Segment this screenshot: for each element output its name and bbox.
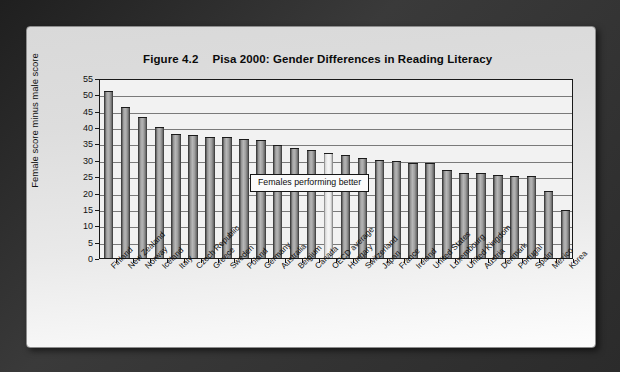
- y-axis-tick-label: 20: [69, 189, 93, 198]
- bar-oecd-average: [324, 153, 333, 258]
- y-axis-tick-mark: [95, 259, 99, 260]
- bar-germany: [256, 140, 265, 258]
- bar-new-zealand: [121, 107, 130, 258]
- bar-belgium: [290, 148, 299, 258]
- gridline: [100, 129, 572, 130]
- y-axis-tick-label: 35: [69, 140, 93, 149]
- bar-italy: [171, 134, 180, 258]
- bar-czech-republic: [188, 135, 197, 258]
- y-axis-tick-label: 55: [69, 75, 93, 84]
- bar-greece: [205, 137, 214, 258]
- bar-hungary: [341, 155, 350, 258]
- bar-canada: [307, 150, 316, 258]
- y-axis-tick-label: 50: [69, 91, 93, 100]
- gridline: [100, 113, 572, 114]
- bar-chart: Female score minus male score 0510152025…: [27, 27, 595, 347]
- y-axis-tick-label: 25: [69, 173, 93, 182]
- figure-card: Figure 4.2Pisa 2000: Gender Differences …: [26, 26, 596, 348]
- annotation-females-performing-better: Females performing better: [250, 174, 369, 192]
- bar-finland: [104, 91, 113, 258]
- bar-ireland: [408, 163, 417, 258]
- bar-australia: [273, 145, 282, 258]
- bar-mexico: [544, 191, 553, 258]
- bar-poland: [239, 139, 248, 258]
- y-axis-tick-label: 45: [69, 107, 93, 116]
- y-axis-tick-label: 5: [69, 238, 93, 247]
- y-axis-tick-label: 30: [69, 156, 93, 165]
- y-axis-tick-label: 15: [69, 205, 93, 214]
- bar-norway: [138, 117, 147, 258]
- y-axis-tick-label: 10: [69, 222, 93, 231]
- gridline: [100, 96, 572, 97]
- bar-united-states: [425, 163, 434, 258]
- y-axis-tick-label: 40: [69, 124, 93, 133]
- y-axis-tick-label: 0: [69, 255, 93, 264]
- y-axis-label: Female score minus male score: [29, 26, 40, 216]
